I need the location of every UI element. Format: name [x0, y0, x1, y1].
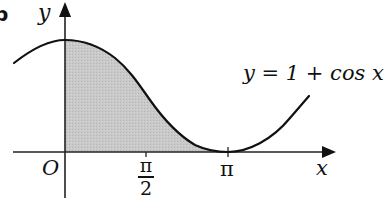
y-axis-arrow-icon [59, 2, 71, 17]
origin-label: O [42, 158, 59, 179]
part-label: b [0, 4, 8, 24]
x-axis-label: x [316, 158, 328, 179]
tick-label-pi: π [220, 159, 234, 180]
equation-label: y = 1 + cos x [243, 63, 384, 84]
diagram-figure: b y O x π π 2 y = 1 + cos x [0, 0, 389, 199]
tick-label-pi-over-2: π 2 [136, 156, 156, 198]
fraction-denominator: 2 [136, 179, 156, 198]
fraction-numerator: π [136, 156, 156, 175]
y-axis-label: y [38, 2, 50, 24]
